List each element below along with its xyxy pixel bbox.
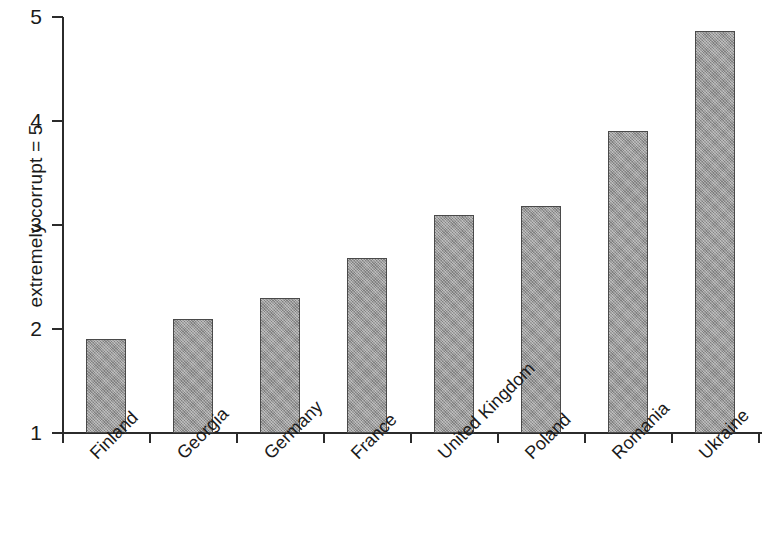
x-axis-line	[62, 432, 762, 434]
y-tick-mark	[52, 224, 63, 226]
y-tick-label: 5	[8, 6, 42, 27]
x-tick-mark	[62, 434, 64, 443]
y-tick-mark	[52, 120, 63, 122]
y-tick-label: 2	[8, 318, 42, 339]
y-tick-label: 1	[8, 422, 42, 443]
bar	[521, 206, 561, 433]
y-tick-label: 4	[8, 110, 42, 131]
x-tick-mark	[323, 434, 325, 443]
x-tick-mark	[497, 434, 499, 443]
y-tick-mark	[52, 328, 63, 330]
x-tick-mark	[236, 434, 238, 443]
x-tick-mark	[584, 434, 586, 443]
x-tick-mark	[149, 434, 151, 443]
x-tick-mark	[410, 434, 412, 443]
y-tick-label: 3	[8, 214, 42, 235]
x-tick-mark	[671, 434, 673, 443]
bar	[260, 298, 300, 433]
bar	[695, 31, 735, 433]
x-tick-mark	[758, 434, 760, 443]
bar	[434, 215, 474, 433]
y-tick-mark	[52, 16, 63, 18]
bar-chart: extremely corrupt = 5 12345 FinlandGeorg…	[0, 0, 766, 549]
bar	[608, 131, 648, 433]
bar	[347, 258, 387, 433]
